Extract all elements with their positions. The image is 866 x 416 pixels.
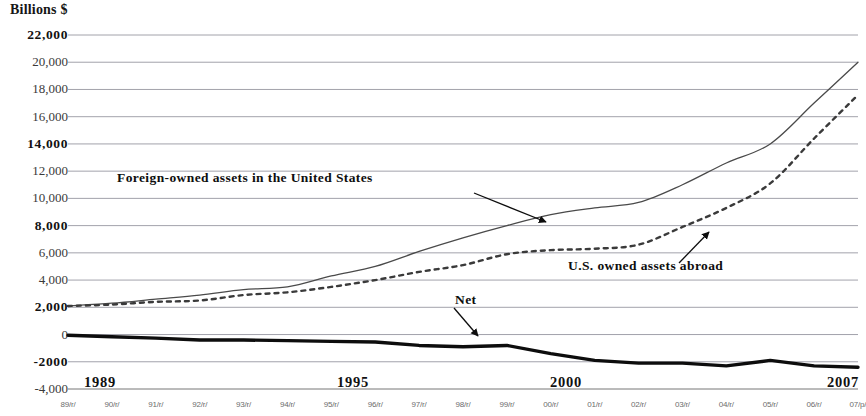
x-minor-tick-label: 03/r/	[675, 400, 690, 409]
x-minor-tick-label: 99/r/	[499, 400, 514, 409]
annotation-arrow	[454, 308, 478, 336]
x-minor-tick-label: 04/r/	[719, 400, 734, 409]
annotation-arrow	[474, 193, 546, 222]
x-major-tick-label: 1995	[337, 374, 369, 391]
x-minor-tick-label: 06/r/	[807, 400, 822, 409]
x-minor-tick-label: 07/p/	[850, 400, 866, 409]
x-major-tick-label: 2007	[827, 374, 859, 391]
x-major-tick-label: 1989	[84, 374, 116, 391]
series-annotation-label: Net	[455, 292, 476, 308]
series-line	[68, 335, 858, 367]
x-minor-tick-label: 96/r/	[368, 400, 383, 409]
x-major-tick-label: 2000	[550, 374, 582, 391]
x-minor-tick-label: 95/r/	[324, 400, 339, 409]
x-minor-tick-label: 89/r/	[60, 400, 75, 409]
series-line	[68, 95, 858, 306]
series-annotation-label: U.S. owned assets abroad	[568, 258, 723, 274]
x-minor-tick-label: 92/r/	[192, 400, 207, 409]
x-minor-tick-label: 05/r/	[763, 400, 778, 409]
x-minor-tick-label: 00/r/	[543, 400, 558, 409]
x-minor-tick-label: 90/r/	[104, 400, 119, 409]
x-minor-tick-label: 02/r/	[631, 400, 646, 409]
series-annotation-label: Foreign-owned assets in the United State…	[117, 170, 373, 186]
x-minor-tick-label: 93/r/	[236, 400, 251, 409]
x-minor-tick-label: 01/r/	[587, 400, 602, 409]
x-minor-tick-label: 98/r/	[455, 400, 470, 409]
x-minor-tick-label: 94/r/	[280, 400, 295, 409]
x-minor-tick-label: 91/r/	[148, 400, 163, 409]
x-minor-tick-label: 97/r/	[412, 400, 427, 409]
